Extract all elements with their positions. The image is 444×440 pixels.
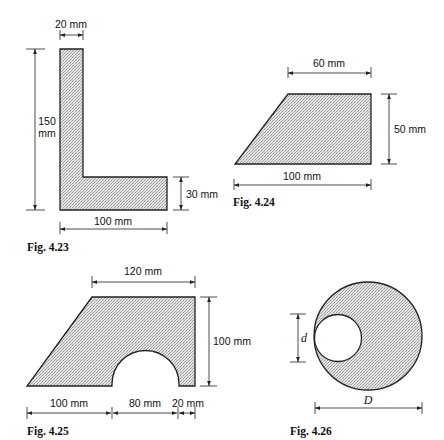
dim-label-base-cutout: 80 mm [129,397,161,409]
dim-flange-thickness: 30 mm [173,177,218,210]
diagram-canvas: 20 mm 150 mm 30 mm 100 mm Fig. 4.23 [0,0,444,440]
caption-fig-4-25: Fig. 4.25 [27,425,69,438]
inner-hole-shape [315,315,362,362]
dim-top-width: 120 mm [92,265,195,288]
caption-fig-4-26: Fig. 4.26 [290,425,332,438]
figure-4-25: 120 mm 100 mm 100 mm 80 mm 20 mm Fig. 4.… [27,265,251,438]
dim-label-base-width: 100 mm [94,215,132,227]
dim-label-base-width: 100 mm [283,170,321,182]
caption-fig-4-24: Fig. 4.24 [233,196,275,209]
dim-label-height-value: 150 [38,115,56,127]
dim-label-top-width: 120 mm [124,265,162,277]
dim-label-flange-thickness: 30 mm [186,188,218,200]
dim-label-base-left: 100 mm [50,397,88,409]
caption-fig-4-23: Fig. 4.23 [27,241,69,254]
dim-height: 100 mm [200,297,251,386]
dim-label-height: 50 mm [394,123,426,135]
dim-height: 150 mm [26,49,57,210]
dim-label-height-unit: mm [38,127,56,139]
dim-label-height: 100 mm [213,335,251,347]
dim-label-hole-diameter: d [301,331,308,345]
figure-4-24: 60 mm 50 mm 100 mm Fig. 4.24 [233,57,426,209]
dim-base-width: 100 mm [60,215,167,234]
cutout-trapezoid-shape [27,297,195,386]
trapezoid-shape [235,94,371,164]
dim-label-outer-diameter: D [363,393,373,407]
dim-top-width: 60 mm [288,57,371,78]
dim-label-top-width: 20 mm [55,18,87,30]
dim-base-segments: 100 mm 80 mm 20 mm [27,397,204,419]
l-section-shape [60,49,167,210]
dim-hole-diameter: d [290,314,310,362]
figure-sheet: 20 mm 150 mm 30 mm 100 mm Fig. 4.23 [0,0,444,440]
dim-base-width: 100 mm [234,170,371,190]
dim-label-top-width: 60 mm [313,57,345,69]
dim-top-width: 20 mm [55,18,87,40]
figure-4-23: 20 mm 150 mm 30 mm 100 mm Fig. 4.23 [26,18,218,254]
figure-4-26: d D Fig. 4.26 [290,282,422,438]
dim-height: 50 mm [381,94,426,164]
dim-outer-diameter: D [315,393,422,414]
dim-label-base-right: 20 mm [172,397,204,409]
